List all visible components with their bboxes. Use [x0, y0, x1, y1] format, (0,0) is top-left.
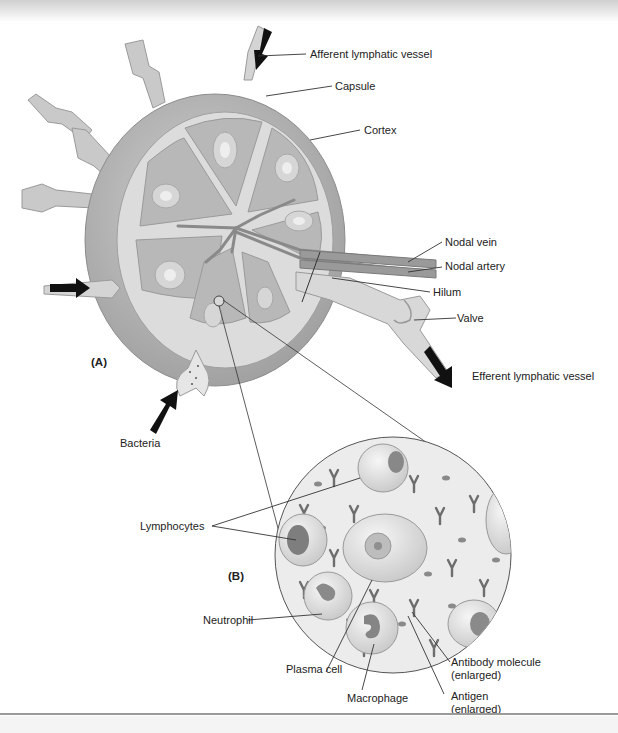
sample-region-marker: [214, 296, 224, 306]
label-antibody-line1: Antibody molecule: [451, 656, 541, 669]
label-valve: Valve: [457, 312, 484, 325]
panel-b-label: (B): [228, 570, 244, 583]
lymphocyte-nucleus-top: [388, 451, 404, 473]
label-bacteria: Bacteria: [120, 437, 160, 450]
panel-a-label: (A): [91, 356, 107, 369]
label-cortex: Cortex: [364, 124, 396, 137]
label-afferent-lymphatic-vessel: Afferent lymphatic vessel: [310, 48, 432, 61]
label-plasma-cell: Plasma cell: [286, 663, 342, 676]
label-antibody-molecule: Antibody molecule (enlarged): [451, 656, 541, 682]
lymphocyte-nucleus-left: [287, 525, 309, 555]
label-neutrophil: Neutrophil: [203, 614, 253, 627]
label-efferent-lymphatic-vessel: Efferent lymphatic vessel: [472, 370, 594, 383]
label-hilum: Hilum: [433, 286, 461, 299]
label-capsule: Capsule: [335, 80, 375, 93]
label-nodal-artery: Nodal artery: [445, 260, 505, 273]
bottom-divider-rule: [0, 713, 618, 715]
label-antibody-line2: (enlarged): [451, 669, 541, 682]
label-lymphocytes: Lymphocytes: [140, 520, 204, 533]
label-macrophage: Macrophage: [347, 692, 408, 705]
label-antigen-line1: Antigen: [451, 690, 501, 703]
bottom-edge-shading: [0, 716, 618, 733]
label-nodal-vein: Nodal vein: [445, 236, 497, 249]
bacteria-arrow-icon: [150, 390, 178, 434]
